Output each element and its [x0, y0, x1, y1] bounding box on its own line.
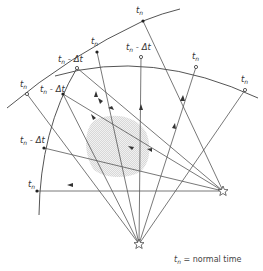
svg-text:tn: tn	[136, 5, 143, 16]
svg-text:tn: tn	[91, 36, 98, 47]
svg-text:tn - Δt: tn - Δt	[58, 54, 83, 65]
svg-text:tn - Δt: tn - Δt	[126, 42, 151, 53]
svg-text:tn: tn	[241, 74, 248, 85]
svg-text:tn - Δt: tn - Δt	[40, 84, 65, 95]
svg-text:tn: tn	[20, 79, 27, 90]
outer-arc	[7, 9, 180, 108]
inner-arc	[55, 66, 258, 98]
source-star-right	[218, 186, 228, 196]
diagram-canvas: tn tn tn - Δt tn - Δt tn tn tn tn - Δt t…	[0, 0, 263, 271]
legend-caption: tn = normal time	[174, 255, 241, 265]
svg-text:tn - Δt: tn - Δt	[20, 135, 45, 146]
svg-text:tn: tn	[28, 179, 35, 190]
svg-text:tn: tn	[192, 51, 199, 62]
source-star-bottom	[134, 239, 144, 249]
